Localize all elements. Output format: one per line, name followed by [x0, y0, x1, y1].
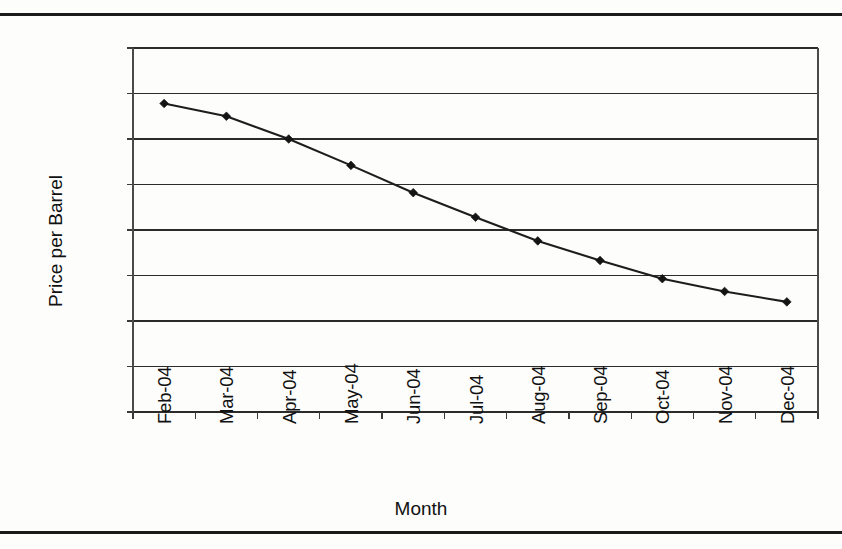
x-axis-tick-label-Apr-04: Apr-04 [281, 370, 300, 424]
x-axis-tick-label-Feb-04: Feb-04 [156, 367, 175, 424]
x-axis-tick-label-Nov-04: Nov-04 [717, 366, 736, 424]
gridlines-group [133, 48, 818, 412]
series-line-price-per-barrel [164, 104, 787, 302]
line-chart-canvas [0, 0, 842, 549]
x-axis-tick-label-Oct-04: Oct-04 [654, 370, 673, 424]
x-axis-tick-label-Jun-04: Jun-04 [405, 369, 424, 424]
data-point-Aug-04 [533, 237, 542, 246]
data-point-Sep-04 [596, 256, 605, 265]
figure-root: $35.00$34.00$33.00$32.00$31.00$30.00$29.… [0, 0, 842, 549]
x-axis-tick-label-Mar-04: Mar-04 [218, 367, 237, 424]
x-axis-tick-label-Sep-04: Sep-04 [592, 366, 611, 424]
data-point-Apr-04 [284, 135, 293, 144]
data-point-Feb-04 [160, 99, 169, 108]
x-axis-tick-label-Jul-04: Jul-04 [468, 375, 487, 424]
x-axis-title: Month [0, 498, 842, 520]
data-point-Mar-04 [222, 112, 231, 121]
data-point-Dec-04 [783, 298, 792, 307]
x-axis-tick-label-Dec-04: Dec-04 [779, 366, 798, 424]
data-series-group [164, 104, 787, 302]
data-point-May-04 [347, 161, 356, 170]
x-axis-tick-label-May-04: May-04 [343, 364, 362, 425]
x-axis-tick-label-Aug-04: Aug-04 [530, 366, 549, 424]
data-point-Jul-04 [471, 213, 480, 222]
data-point-Jun-04 [409, 188, 418, 197]
data-point-Nov-04 [720, 287, 729, 296]
y-axis-title: Price per Barrel [45, 141, 67, 341]
y-axis-ticks-group [127, 48, 133, 412]
